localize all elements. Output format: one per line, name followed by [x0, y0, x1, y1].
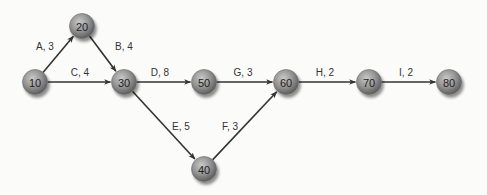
node-30: 30: [112, 70, 137, 95]
edge-label: H, 2: [316, 67, 335, 78]
node-label: 40: [198, 164, 210, 176]
edge-label: A, 3: [36, 41, 54, 52]
network-diagram: A, 3B, 4C, 4D, 8E, 5F, 3G, 3H, 2I, 2 102…: [0, 0, 487, 195]
node-label: 10: [29, 77, 41, 89]
edge-label: C, 4: [71, 67, 90, 78]
node-70: 70: [357, 70, 382, 95]
node-20: 20: [70, 14, 95, 39]
node-label: 50: [198, 77, 210, 89]
node-50: 50: [192, 70, 217, 95]
node-label: 80: [443, 77, 455, 89]
edge-label: F, 3: [222, 121, 239, 132]
edge-label: D, 8: [151, 67, 170, 78]
edge-20-30-arrow: [90, 36, 116, 71]
node-40: 40: [192, 157, 217, 182]
edge-label: G, 3: [234, 67, 253, 78]
node-label: 70: [363, 77, 375, 89]
edges-layer: [43, 36, 435, 160]
edge-label: E, 5: [172, 121, 190, 132]
node-label: 20: [76, 21, 88, 33]
nodes-layer: 1020304050607080: [23, 14, 462, 182]
edge-labels-layer: A, 3B, 4C, 4D, 8E, 5F, 3G, 3H, 2I, 2: [36, 41, 413, 132]
edge-label: B, 4: [115, 41, 133, 52]
node-label: 30: [118, 77, 130, 89]
node-10: 10: [23, 70, 48, 95]
edge-label: I, 2: [399, 67, 413, 78]
node-label: 60: [280, 77, 292, 89]
node-60: 60: [274, 70, 299, 95]
node-80: 80: [437, 70, 462, 95]
